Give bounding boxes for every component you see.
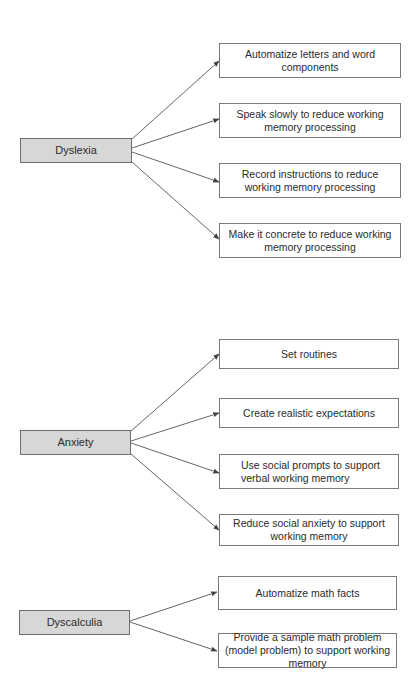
arrow-dyslexia-to-make-concrete <box>132 162 219 239</box>
strategy-speak-slowly: Speak slowly to reduce working memory pr… <box>219 103 401 138</box>
strategy-automatize-letters: Automatize letters and word components <box>219 43 401 78</box>
category-dyslexia: Dyslexia <box>20 138 132 163</box>
strategy-set-routines: Set routines <box>219 339 399 369</box>
strategy-label: Set routines <box>281 348 337 361</box>
category-anxiety: Anxiety <box>20 430 131 455</box>
strategy-label: Reduce social anxiety to support working… <box>226 517 392 543</box>
category-dyscalculia: Dyscalculia <box>19 610 130 635</box>
strategy-social-prompts: Use social prompts to support verbal wor… <box>219 454 399 489</box>
strategy-realistic-expectations: Create realistic expectations <box>219 398 399 428</box>
strategy-sample-math-problem: Provide a sample math problem (model pro… <box>218 633 397 668</box>
category-label: Anxiety <box>57 436 93 449</box>
strategy-label: Speak slowly to reduce working memory pr… <box>226 108 394 134</box>
arrow-dyslexia-to-record-instructions <box>132 152 219 182</box>
strategy-label: Automatize letters and word components <box>226 48 394 74</box>
arrow-anxiety-to-realistic-expectations <box>131 413 219 441</box>
arrow-anxiety-to-social-prompts <box>131 443 219 473</box>
strategy-reduce-social-anxiety: Reduce social anxiety to support working… <box>219 514 399 546</box>
strategy-record-instructions: Record instructions to reduce working me… <box>219 163 401 198</box>
strategy-make-concrete: Make it concrete to reduce working memor… <box>219 223 401 258</box>
strategy-label: Record instructions to reduce working me… <box>226 168 394 194</box>
working-memory-strategies-diagram: Dyslexia Automatize letters and word com… <box>0 0 420 684</box>
strategy-automatize-math-facts: Automatize math facts <box>218 576 397 610</box>
strategy-label: Automatize math facts <box>256 587 360 600</box>
arrow-anxiety-to-reduce-social-anxiety <box>131 454 219 530</box>
arrow-dyslexia-to-speak-slowly <box>132 119 219 148</box>
arrow-dyscalculia-to-math-facts <box>130 592 217 621</box>
strategy-label: Use social prompts to support verbal wor… <box>241 459 392 485</box>
arrow-anxiety-to-set-routines <box>131 354 219 431</box>
category-label: Dyslexia <box>55 144 97 157</box>
strategy-label: Create realistic expectations <box>243 407 375 420</box>
strategy-label: Make it concrete to reduce working memor… <box>226 228 394 254</box>
category-label: Dyscalculia <box>47 616 103 629</box>
strategy-label: Provide a sample math problem (model pro… <box>222 631 393 670</box>
arrow-dyscalculia-to-sample-problem <box>130 622 217 651</box>
arrow-dyslexia-to-automatize-letters <box>132 61 219 139</box>
